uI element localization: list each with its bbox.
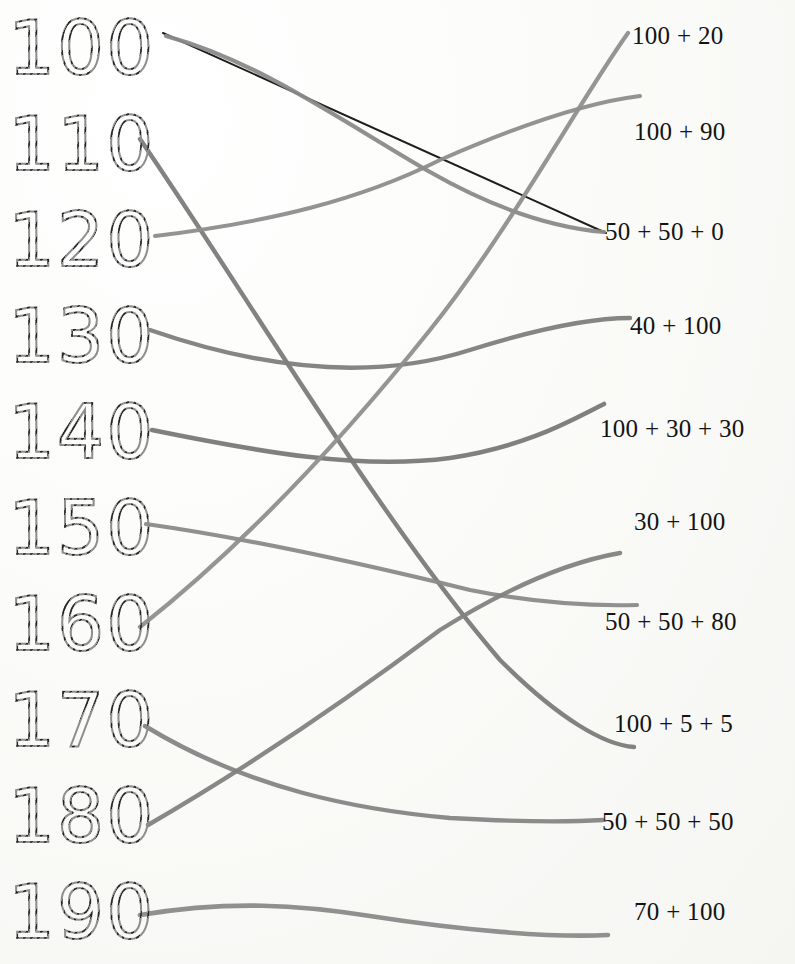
expression-item-expr-180[interactable]: 50 + 50 + 80 [605,608,737,636]
expression-item-expr-150[interactable]: 50 + 50 + 50 [602,808,734,836]
expressions-column: 100 + 20100 + 9050 + 50 + 040 + 100100 +… [600,0,795,964]
worksheet-sheet: 1001001101101201201301301401401501501601… [0,0,795,964]
matching-line-num-190-to-expr-170[interactable] [140,906,608,936]
number-dotted-trace: 180 [8,768,155,864]
matching-line-num-170-to-expr-150[interactable] [145,726,603,821]
matching-line-num-160-to-expr-120[interactable] [140,33,628,627]
expression-item-expr-160[interactable]: 100 + 30 + 30 [600,415,745,443]
number-item-190[interactable]: 190190 [8,864,193,960]
number-dotted-trace: 190 [8,864,155,960]
expression-item-expr-140[interactable]: 40 + 100 [630,312,722,340]
expression-item-expr-100[interactable]: 50 + 50 + 0 [605,218,724,246]
matching-line-num-140-to-expr-160[interactable] [152,404,604,462]
number-item-120[interactable]: 120120 [8,192,193,288]
matching-line-num-150-to-expr-180[interactable] [146,524,637,605]
number-dotted-trace: 120 [8,192,155,288]
number-dotted-trace: 100 [8,0,155,96]
number-dotted-trace: 130 [8,288,155,384]
number-dotted-trace: 170 [8,672,155,768]
expression-item-expr-190[interactable]: 100 + 90 [634,118,726,146]
expression-item-expr-130[interactable]: 30 + 100 [634,508,726,536]
number-item-110[interactable]: 110110 [8,96,193,192]
number-dotted-trace: 110 [8,96,155,192]
number-item-100[interactable]: 100100 [8,0,193,96]
number-item-180[interactable]: 180180 [8,768,193,864]
number-item-160[interactable]: 160160 [8,576,193,672]
number-item-170[interactable]: 170170 [8,672,193,768]
number-item-150[interactable]: 150150 [8,480,193,576]
number-dotted-trace: 160 [8,576,155,672]
number-dotted-trace: 150 [8,480,155,576]
matching-line-num-130-to-expr-140[interactable] [150,318,630,368]
number-item-140[interactable]: 140140 [8,384,193,480]
expression-item-expr-110[interactable]: 100 + 5 + 5 [614,710,733,738]
matching-line-num-180-to-expr-130[interactable] [148,553,620,825]
matching-line-num-100-to-expr-100[interactable] [163,33,606,233]
number-dotted-trace: 140 [8,384,155,480]
number-item-130[interactable]: 130130 [8,288,193,384]
expression-item-expr-120[interactable]: 100 + 20 [632,22,724,50]
expression-item-expr-170[interactable]: 70 + 100 [634,898,726,926]
numbers-column: 1001001101101201201301301401401501501601… [0,0,200,964]
